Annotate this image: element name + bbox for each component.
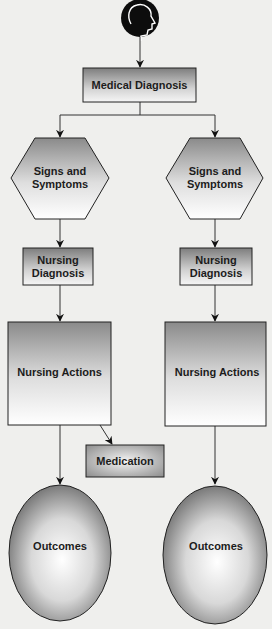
label-medical-diagnosis: Medical Diagnosis xyxy=(92,79,188,91)
node-nursing-diagnosis-left: Nursing Diagnosis xyxy=(23,248,93,285)
node-signs-symptoms-left: Signs and Symptoms xyxy=(11,138,109,219)
label-nursing-diag-line1: Nursing xyxy=(195,254,237,266)
node-medical-diagnosis: Medical Diagnosis xyxy=(83,68,196,102)
label-nursing-actions: Nursing Actions xyxy=(175,366,260,378)
node-nursing-actions-right: Nursing Actions xyxy=(165,322,266,426)
node-outcomes-right: Outcomes xyxy=(163,486,267,624)
node-signs-symptoms-right: Signs and Symptoms xyxy=(166,138,263,219)
label-signs-line2: Symptoms xyxy=(187,178,243,190)
node-nursing-diagnosis-right: Nursing Diagnosis xyxy=(180,248,252,285)
label-medication: Medication xyxy=(96,455,154,467)
person-head-icon xyxy=(121,0,159,41)
node-outcomes-left: Outcomes xyxy=(9,485,111,621)
label-signs-line1: Signs and xyxy=(34,165,87,177)
node-nursing-actions-left: Nursing Actions xyxy=(8,322,111,425)
label-nursing-actions: Nursing Actions xyxy=(17,366,102,378)
label-nursing-diag-line1: Nursing xyxy=(37,254,79,266)
node-medication: Medication xyxy=(86,445,164,477)
label-nursing-diag-line2: Diagnosis xyxy=(32,267,85,279)
label-outcomes: Outcomes xyxy=(189,540,243,552)
label-outcomes: Outcomes xyxy=(33,540,87,552)
label-signs-line1: Signs and xyxy=(189,165,242,177)
label-nursing-diag-line2: Diagnosis xyxy=(190,267,243,279)
label-signs-line2: Symptoms xyxy=(32,178,88,190)
nursing-process-diagram: Medical Diagnosis Signs and Symptoms Sig… xyxy=(0,0,272,629)
